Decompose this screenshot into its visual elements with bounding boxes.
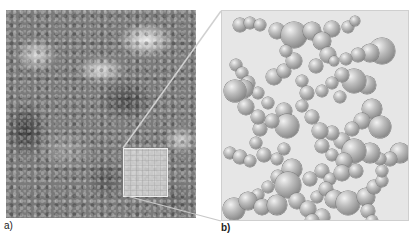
sphere-particle bbox=[265, 114, 279, 128]
sphere-particle bbox=[275, 114, 299, 138]
sphere-particle bbox=[376, 165, 388, 177]
sphere-particle bbox=[305, 214, 319, 221]
sphere-particle bbox=[278, 143, 290, 155]
sphere-particle bbox=[252, 87, 264, 99]
sphere-particle bbox=[334, 91, 346, 103]
sphere-model-panel bbox=[221, 10, 409, 221]
sphere-particle bbox=[257, 148, 271, 162]
sphere-particle bbox=[267, 195, 287, 215]
sphere-particle bbox=[305, 110, 319, 124]
sphere-particle bbox=[296, 100, 308, 112]
sphere-particle bbox=[369, 116, 391, 138]
sphere-particle bbox=[251, 110, 265, 124]
sphere-particle bbox=[300, 86, 314, 100]
sphere-particle bbox=[349, 164, 363, 178]
sphere-particle bbox=[350, 16, 360, 26]
sphere-particle bbox=[351, 48, 365, 62]
sphere-particle bbox=[254, 19, 266, 31]
sphere-particle bbox=[340, 53, 352, 65]
sphere-particle bbox=[316, 85, 328, 97]
sphere-particle bbox=[366, 215, 378, 221]
sphere-particle bbox=[309, 59, 323, 73]
sphere-particle bbox=[262, 181, 274, 193]
sphere-particle bbox=[253, 122, 267, 136]
sphere-particle bbox=[326, 77, 338, 89]
sphere-particle bbox=[312, 123, 328, 139]
sphere-particle bbox=[262, 97, 274, 109]
sphere-particle bbox=[329, 56, 339, 66]
panel-b-label: b) bbox=[221, 222, 230, 233]
sphere-particle bbox=[280, 45, 292, 57]
sphere-particle bbox=[334, 165, 350, 181]
sphere-particle bbox=[271, 153, 283, 165]
sphere-particle bbox=[244, 155, 256, 167]
sphere-particle bbox=[250, 137, 262, 149]
